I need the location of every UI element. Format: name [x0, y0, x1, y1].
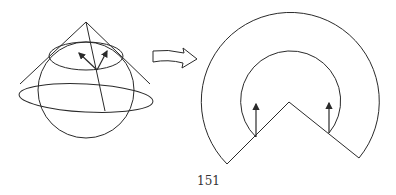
outer-arc: [201, 12, 379, 164]
figure-canvas: [0, 0, 396, 195]
hollow-right-arrow-icon: [153, 48, 197, 68]
tangent-vector-2: [97, 51, 107, 70]
sphere: [38, 42, 134, 138]
unrolled-cone-diagram: [201, 12, 379, 164]
generator-line: [86, 22, 105, 111]
cone-side-right: [86, 22, 150, 84]
cone-side-left: [20, 22, 86, 84]
tangent-circle: [49, 42, 123, 70]
cone-sphere-diagram: [18, 22, 153, 138]
page-number: 151: [197, 174, 220, 188]
